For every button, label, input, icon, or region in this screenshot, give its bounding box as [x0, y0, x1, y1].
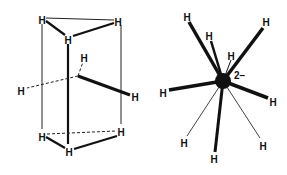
hydrogen-atom-label: H: [259, 141, 266, 152]
hydrogen-atom-label: H: [38, 132, 45, 143]
hydrogen-atom-label: H: [38, 15, 45, 26]
hydrogen-atom-label: H: [210, 154, 217, 165]
hydrogen-atom-label: H: [205, 31, 212, 42]
metal-center-atom: [215, 73, 231, 89]
hydrogen-atom-label: H: [17, 86, 24, 97]
hydrogen-atom-label: H: [131, 92, 138, 103]
charge-label: 2−: [234, 70, 246, 81]
hydrogen-atom-label: H: [227, 51, 234, 62]
nine-coordinate-figure: [169, 22, 268, 152]
hydride-structure-diagram: HHHHHHHHHHHHHHHHHH 2−: [0, 0, 287, 175]
hydrogen-atom-label: H: [159, 88, 166, 99]
hydrogen-atom-label: H: [183, 12, 190, 23]
hydrogen-atom-label: H: [65, 147, 72, 158]
hydrogen-atom-label: H: [262, 17, 269, 28]
hydrogen-atom-label: H: [180, 138, 187, 149]
hydrogen-atom-label: H: [64, 35, 71, 46]
hydrogen-atom-label: H: [269, 97, 276, 108]
hydrogen-atom-label: H: [80, 53, 87, 64]
hydrogen-atom-label: H: [117, 127, 124, 138]
hydrogen-atom-label: H: [114, 17, 121, 28]
trigonal-prism-figure: [27, 18, 130, 149]
